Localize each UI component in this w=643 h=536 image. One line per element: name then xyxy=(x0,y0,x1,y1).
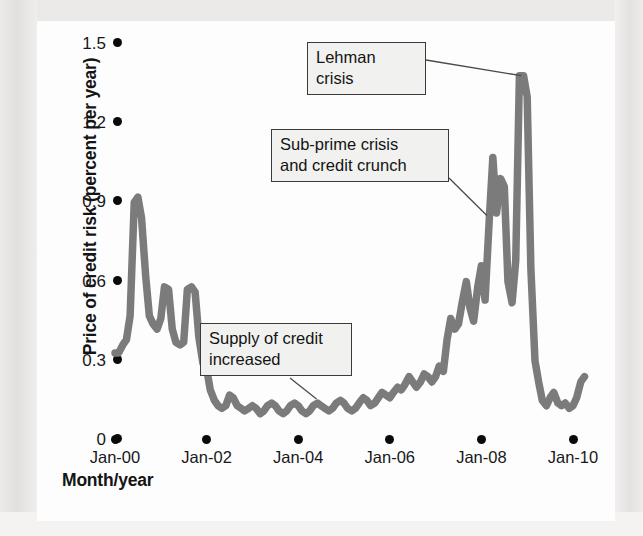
page-margin-right xyxy=(614,0,643,536)
x-tick-jan-08: Jan-08 xyxy=(446,435,516,467)
annotation-lehman-crisis: Lehman crisis xyxy=(307,42,426,95)
annotation-subprime-crisis: Sub-prime crisis and credit crunch xyxy=(271,129,449,182)
y-tick-1-2: 1.2 xyxy=(46,112,122,134)
x-tick-dot-icon xyxy=(477,435,486,444)
x-tick-dot-icon xyxy=(111,435,120,444)
x-tick-dot-icon xyxy=(294,435,303,444)
y-tick-dot-icon xyxy=(113,196,122,205)
y-tick-dot-icon xyxy=(113,117,122,126)
x-tick-label: Jan-04 xyxy=(273,448,323,466)
x-tick-jan-00: Jan-00 xyxy=(80,435,150,467)
y-tick-0-6: 0.6 xyxy=(46,271,122,293)
y-tick-dot-icon xyxy=(113,355,122,364)
x-tick-dot-icon xyxy=(202,435,211,444)
y-tick-label: 0.3 xyxy=(82,350,106,372)
x-tick-dot-icon xyxy=(569,435,578,444)
x-tick-jan-04: Jan-04 xyxy=(263,435,333,467)
x-tick-dot-icon xyxy=(385,435,394,444)
x-tick-label: Jan-08 xyxy=(456,448,506,466)
x-tick-jan-02: Jan-02 xyxy=(172,435,242,467)
y-tick-dot-icon xyxy=(113,38,122,47)
y-tick-1-5: 1.5 xyxy=(46,33,122,55)
y-tick-0-3: 0.3 xyxy=(46,350,122,372)
x-tick-label: Jan-10 xyxy=(548,448,598,466)
x-tick-jan-10: Jan-10 xyxy=(538,435,608,467)
y-tick-dot-icon xyxy=(113,276,122,285)
x-tick-label: Jan-00 xyxy=(90,448,140,466)
annotation-supply-of-credit: Supply of credit increased xyxy=(200,323,352,376)
x-axis-title: Month/year xyxy=(62,470,153,491)
y-tick-0-9: 0.9 xyxy=(46,191,122,213)
x-tick-label: Jan-06 xyxy=(365,448,415,466)
y-tick-label: 0.9 xyxy=(82,191,106,213)
x-tick-jan-06: Jan-06 xyxy=(355,435,425,467)
page-margin-left xyxy=(0,0,37,536)
figure-page: Price of credit risk (percent per year) … xyxy=(0,0,643,536)
x-tick-label: Jan-02 xyxy=(181,448,231,466)
y-tick-label: 1.5 xyxy=(82,33,106,55)
y-tick-label: 0.6 xyxy=(82,271,106,293)
y-tick-label: 1.2 xyxy=(82,112,106,134)
